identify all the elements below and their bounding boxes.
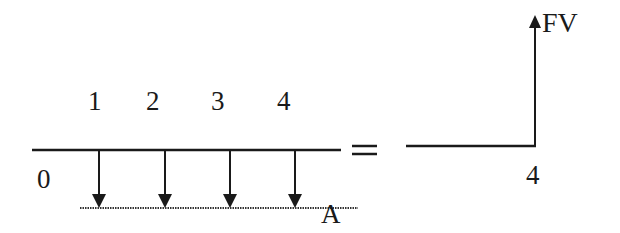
payment-arrow-2 [158,150,172,208]
period-label-3: 3 [211,86,225,116]
future-value-timeline: FV 4 [406,7,578,190]
arrow-down-icon [92,194,106,208]
arrow-up-icon [529,15,541,28]
future-value-label: FV [542,7,578,38]
arrow-down-icon [223,194,237,208]
origin-label: 0 [37,164,51,194]
period-label-4: 4 [277,86,291,116]
arrow-down-icon [158,194,172,208]
annuity-timeline: 1 2 3 4 0 A [32,86,358,229]
equals-sign [352,146,377,154]
period-label-1: 1 [88,86,102,116]
payment-arrow-3 [223,150,237,208]
payment-arrow-1 [92,150,106,208]
payment-label: A [321,199,341,229]
arrow-down-icon [288,194,302,208]
cash-flow-diagram: 1 2 3 4 0 A FV [0,0,620,233]
period-label-2: 2 [146,86,160,116]
payment-arrow-4 [288,150,302,208]
end-period-label: 4 [526,160,540,190]
